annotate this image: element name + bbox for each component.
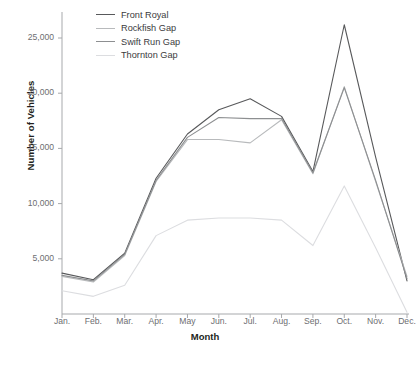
legend-swatch-front-royal bbox=[96, 14, 115, 15]
legend-swatch-thornton-gap bbox=[96, 55, 115, 56]
y-tick-label: 20,000 bbox=[8, 87, 54, 97]
series-line-rockfish-gap bbox=[62, 87, 407, 282]
legend-swatch-swift-run-gap bbox=[96, 41, 115, 42]
data-series-group bbox=[62, 25, 407, 313]
x-axis-title: Month bbox=[0, 331, 410, 342]
y-tick-label: 15,000 bbox=[8, 142, 54, 152]
legend-label-swift-run-gap: Swift Run Gap bbox=[121, 37, 180, 47]
legend-label-rockfish-gap: Rockfish Gap bbox=[121, 23, 176, 33]
series-line-front-royal bbox=[62, 25, 407, 281]
y-axis-title: Number of Vehicles bbox=[25, 56, 36, 196]
legend-item-swift-run-gap: Swift Run Gap bbox=[96, 35, 180, 49]
chart-legend: Front Royal Rockfish Gap Swift Run Gap T… bbox=[96, 8, 180, 62]
legend-item-thornton-gap: Thornton Gap bbox=[96, 49, 180, 63]
legend-label-front-royal: Front Royal bbox=[121, 10, 169, 20]
y-axis-ticks bbox=[58, 38, 62, 259]
series-line-swift-run-gap bbox=[62, 88, 407, 281]
legend-item-rockfish-gap: Rockfish Gap bbox=[96, 22, 180, 36]
x-tick-label: Dec. bbox=[387, 316, 420, 326]
legend-label-thornton-gap: Thornton Gap bbox=[121, 50, 178, 60]
y-tick-label: 25,000 bbox=[8, 32, 54, 42]
legend-item-front-royal: Front Royal bbox=[96, 8, 180, 22]
y-tick-label: 10,000 bbox=[8, 198, 54, 208]
y-tick-label: 5,000 bbox=[8, 253, 54, 263]
legend-swatch-rockfish-gap bbox=[96, 28, 115, 29]
series-line-thornton-gap bbox=[62, 186, 407, 312]
